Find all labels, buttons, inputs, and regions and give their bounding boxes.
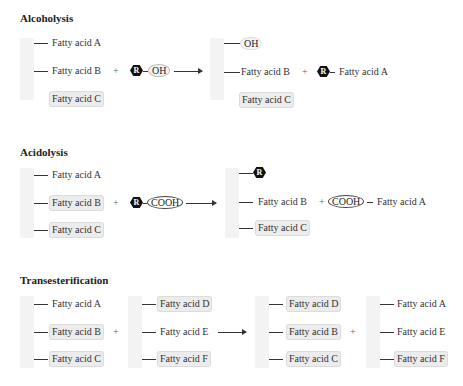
bond-line: [34, 230, 48, 231]
plus-sign: +: [350, 325, 356, 339]
fatty-acid-label: Fatty acid B: [287, 325, 340, 339]
bond-line: [142, 359, 156, 360]
bond-line: [269, 332, 283, 333]
bond-line: [34, 71, 48, 72]
bond-line: [367, 202, 373, 203]
bond-line: [34, 359, 48, 360]
glycerol-backbone: [20, 296, 34, 368]
hydroxyl-group: OH: [148, 64, 170, 77]
bond-line: [269, 359, 283, 360]
plus-sign: +: [113, 64, 119, 78]
section-title: Alcoholysis: [20, 12, 73, 24]
bond-line: [142, 304, 156, 305]
fatty-acid-label: Fatty acid F: [395, 352, 447, 366]
section-title: Transesterification: [20, 274, 108, 286]
fatty-acid-label: Fatty acid C: [287, 352, 340, 366]
section-title: Acidolysis: [20, 146, 68, 158]
r-group-icon: R: [130, 197, 143, 208]
glycerol-backbone: [20, 168, 34, 238]
r-group-icon: R: [317, 66, 330, 77]
bond-line: [224, 43, 240, 44]
carboxyl-group: COOH: [328, 195, 364, 208]
glycerol-backbone: [210, 38, 224, 100]
reaction-arrow: [174, 71, 202, 72]
fatty-acid-label: Fatty acid C: [50, 92, 103, 106]
bond-line: [34, 175, 48, 176]
fatty-acid-label: Fatty acid C: [50, 223, 103, 237]
reaction-arrow: [186, 203, 216, 204]
fatty-acid-label: Fatty acid C: [50, 352, 103, 366]
bond-line: [34, 332, 48, 333]
bond-line: [269, 304, 283, 305]
fatty-acid-label: Fatty acid A: [52, 297, 101, 311]
bond-line: [330, 72, 335, 73]
fatty-acid-label: Fatty acid A: [339, 65, 388, 79]
carboxyl-group: COOH: [147, 196, 183, 209]
fatty-acid-label: Fatty acid D: [158, 297, 211, 311]
glycerol-backbone: [366, 296, 380, 368]
reaction-arrow: [218, 332, 246, 333]
glycerol-backbone: [20, 38, 34, 100]
bond-line: [224, 72, 240, 73]
fatty-acid-label: Fatty acid B: [50, 325, 103, 339]
plus-sign: +: [113, 325, 119, 339]
glycerol-backbone: [225, 168, 239, 238]
bond-line: [380, 332, 394, 333]
bond-line: [34, 304, 48, 305]
r-group-icon: R: [130, 65, 143, 76]
fatty-acid-label: Fatty acid A: [377, 195, 426, 209]
bond-line: [380, 359, 394, 360]
bond-line: [239, 228, 253, 229]
glycerol-backbone: [128, 296, 142, 368]
fatty-acid-label: Fatty acid F: [158, 352, 210, 366]
bond-line: [239, 202, 253, 203]
fatty-acid-label: Fatty acid B: [241, 65, 290, 79]
fatty-acid-label: Fatty acid B: [50, 196, 103, 210]
fatty-acid-label: Fatty acid A: [52, 168, 101, 182]
plus-sign: +: [113, 196, 119, 210]
fatty-acid-label: Fatty acid C: [256, 221, 309, 235]
fatty-acid-label: Fatty acid D: [287, 297, 340, 311]
hydroxyl-group: OH: [240, 37, 262, 50]
fatty-acid-label: Fatty acid B: [258, 195, 307, 209]
fatty-acid-label: Fatty acid E: [160, 325, 208, 339]
plus-sign: +: [319, 195, 325, 209]
glycerol-backbone: [255, 296, 269, 368]
r-group-icon: R: [253, 167, 266, 178]
fatty-acid-label: Fatty acid A: [397, 297, 446, 311]
bond-line: [34, 203, 48, 204]
fatty-acid-label: Fatty acid C: [240, 93, 293, 107]
plus-sign: +: [302, 65, 308, 79]
bond-line: [239, 173, 253, 174]
bond-line: [34, 43, 48, 44]
bond-line: [380, 304, 394, 305]
fatty-acid-label: Fatty acid A: [52, 36, 101, 50]
bond-line: [142, 332, 156, 333]
fatty-acid-label: Fatty acid E: [397, 325, 445, 339]
fatty-acid-label: Fatty acid B: [52, 64, 101, 78]
